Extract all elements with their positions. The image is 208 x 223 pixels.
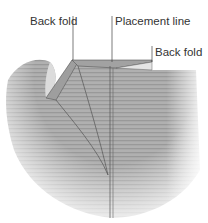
- label-back-fold-left: Back fold: [30, 16, 77, 28]
- fade-right: [0, 0, 208, 223]
- fold-illustration: [0, 0, 208, 223]
- diagram-canvas: Back fold Placement line Back fold: [0, 0, 208, 223]
- label-back-fold-right: Back fold: [155, 47, 202, 59]
- label-placement-line: Placement line: [115, 16, 190, 28]
